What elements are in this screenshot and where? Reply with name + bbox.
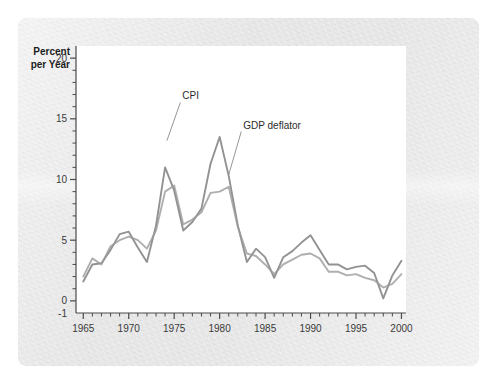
series-annotation-label: CPI <box>182 90 199 101</box>
y-axis-title-line1: Percent <box>33 46 70 57</box>
y-axis: 05101520-1 <box>56 46 76 319</box>
x-tick-label: 1965 <box>72 323 95 334</box>
x-tick-label: 1970 <box>118 323 141 334</box>
y-tick-label: 0 <box>61 295 67 306</box>
x-tick-label: 2000 <box>390 323 413 334</box>
y-tick-label: 5 <box>61 235 67 246</box>
x-tick-label: 1995 <box>345 323 368 334</box>
scanned-page: 05101520-1 19651970197519801985199019952… <box>0 0 497 384</box>
chart-figure: 05101520-1 19651970197519801985199019952… <box>0 0 497 384</box>
x-tick-label: 1985 <box>254 323 277 334</box>
x-tick-label: 1990 <box>299 323 322 334</box>
series-annotation-label: GDP deflator <box>243 120 301 131</box>
y-tick-label-bottom: -1 <box>58 308 67 319</box>
x-tick-label: 1975 <box>163 323 186 334</box>
y-tick-label: 15 <box>56 113 68 124</box>
y-tick-label: 10 <box>56 174 68 185</box>
x-tick-label: 1980 <box>209 323 232 334</box>
inflation-line-chart: 05101520-1 19651970197519801985199019952… <box>0 0 497 384</box>
plot-area-background <box>76 46 406 313</box>
x-axis: 19651970197519801985199019952000 <box>72 313 413 334</box>
y-axis-title-line2: per Year <box>31 59 70 70</box>
